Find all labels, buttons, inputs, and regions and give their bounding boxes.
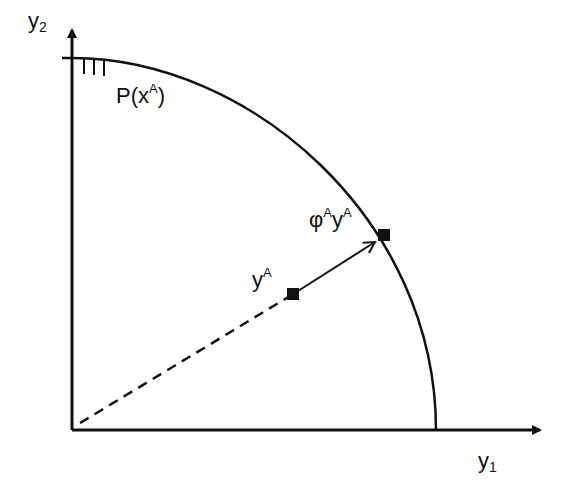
ray-dashed-line [80,296,290,423]
frontier-label-close: ) [158,83,165,108]
observed-label-base: y [252,267,263,292]
projected-label-sup: A [343,205,352,220]
y2-axis-label: y2 [28,10,47,34]
y1-label-sub: 1 [489,459,497,475]
observed-point-marker [287,288,299,300]
y2-label-sub: 2 [39,19,47,35]
expansion-arrow [298,242,375,291]
y1-label-base: y [478,448,489,473]
projected-point-marker [378,229,390,241]
frontier-label: P(xA) [116,82,165,107]
projected-label-phi-sup: A [323,205,332,220]
frontier-label-sup: A [149,81,158,96]
production-frontier-diagram [0,0,567,492]
y1-axis-label: y1 [478,450,497,474]
projected-label-base: y [332,207,343,232]
production-frontier-curve [62,58,436,430]
projected-label-phi: φ [309,207,323,232]
observed-label-sup: A [263,265,272,280]
projected-point-label: φAyA [309,206,352,231]
y2-label-base: y [28,8,39,33]
frontier-hatch-marks [84,58,104,76]
frontier-label-base: P(x [116,83,149,108]
observed-point-label: yA [252,266,272,291]
